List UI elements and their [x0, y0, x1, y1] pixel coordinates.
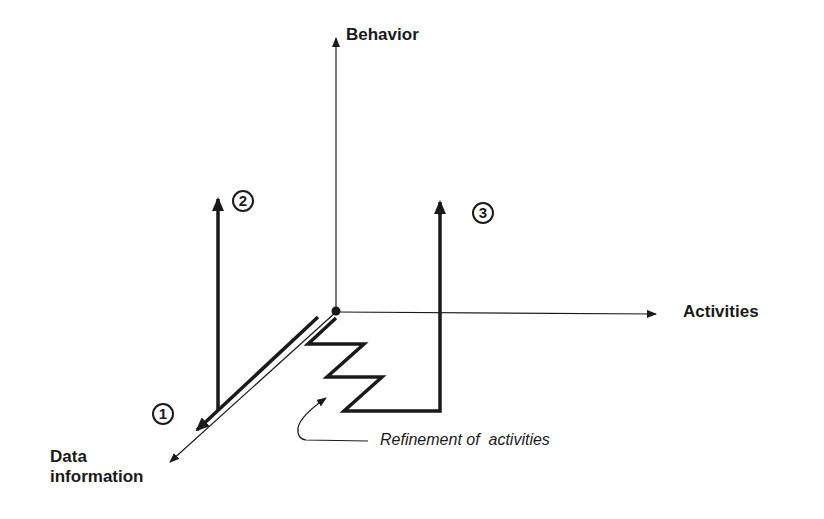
marker-1: 1: [152, 403, 174, 425]
activities-axis-label: Activities: [683, 302, 759, 321]
marker-2: 2: [232, 190, 254, 212]
path-1-arrow: [197, 317, 318, 430]
data-axis-label-line1: Data: [50, 447, 87, 466]
data-axis-label-line2: information: [50, 467, 144, 486]
activities-axis: [336, 312, 656, 314]
marker-3: 3: [472, 202, 494, 224]
path-3-zigzag: [308, 210, 440, 411]
origin-dot: [332, 307, 341, 316]
behavior-axis-label: Behavior: [346, 25, 419, 44]
refinement-callout-line: [298, 398, 368, 441]
refinement-annotation: Refinement of activities: [380, 431, 550, 449]
